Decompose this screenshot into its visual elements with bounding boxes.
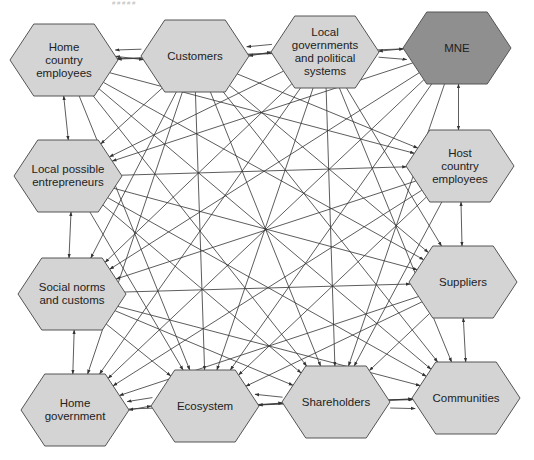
node-local-governments-hexagon-icon [271, 16, 379, 88]
edge-customers-to-home-country-employees [115, 49, 141, 50]
edge-local-governments-to-communities [339, 88, 451, 362]
edges-layer [0, 0, 534, 460]
node-social-norms-hexagon-icon [18, 258, 126, 330]
edge-local-possible-entrepreneurs-to-host-country-employees [122, 167, 407, 175]
node-communities-hexagon-icon [412, 362, 520, 434]
edge-local-possible-entrepreneurs-to-suppliers [114, 188, 417, 269]
edge-mne-to-ecosystem [230, 84, 431, 370]
node-ecosystem-hexagon-icon [151, 370, 259, 442]
edge-shareholders-to-communities [390, 408, 415, 409]
edge-ecosystem-to-home-government [127, 398, 152, 402]
node-host-country-employees-hexagon-icon [406, 130, 514, 202]
stakeholder-diagram: # # # # # Home country employeesCustomer… [0, 0, 534, 460]
edge-suppliers-to-shareholders [369, 313, 429, 370]
edge-local-governments-to-customers [247, 44, 272, 46]
edge-home-country-employees-to-local-possible-entrepreneurs [64, 96, 69, 140]
node-customers-hexagon-icon [141, 20, 249, 92]
node-home-country-employees-hexagon-icon [10, 24, 118, 96]
edge-customers-to-home-government [88, 92, 183, 374]
node-shareholders-hexagon-icon [282, 366, 390, 438]
edge-social-norms-to-suppliers [125, 284, 411, 292]
edge-shareholders-to-ecosystem [255, 394, 283, 397]
edge-social-norms-to-home-government [73, 330, 74, 374]
edge-local-governments-to-mne [379, 57, 407, 59]
edge-host-country-employees-to-social-norms [116, 181, 416, 279]
edge-host-country-employees-to-suppliers [461, 202, 462, 246]
node-local-possible-entrepreneurs-hexagon-icon [14, 140, 122, 212]
edge-suppliers-to-communities [463, 318, 465, 362]
node-home-government-hexagon-icon [21, 374, 129, 446]
edge-group [64, 44, 466, 410]
node-suppliers-hexagon-icon [409, 246, 517, 318]
node-mne-hexagon-icon [403, 12, 511, 84]
edge-local-possible-entrepreneurs-to-social-norms [69, 212, 71, 258]
